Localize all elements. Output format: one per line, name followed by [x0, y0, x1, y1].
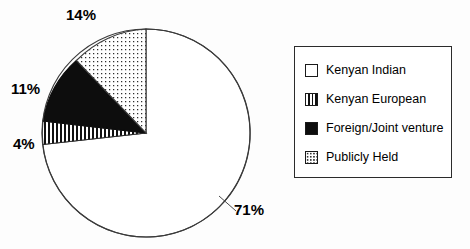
pie-chart-figure: 14% 11% 4% 71% Kenyan Indian Kenyan Euro…	[0, 0, 470, 249]
slice-value-label-kenyan-european: 4%	[13, 135, 35, 152]
legend-item-publicly-held: Publicly Held	[305, 143, 449, 172]
legend-item-kenyan-indian: Kenyan Indian	[305, 56, 449, 85]
legend-swatch-solid-black-icon	[305, 122, 318, 135]
legend-swatch-dots-icon	[305, 151, 318, 164]
slice-value-label-kenyan-indian: 71%	[234, 201, 264, 218]
legend: Kenyan Indian Kenyan European Foreign/Jo…	[294, 46, 452, 178]
legend-swatch-vertical-stripes-icon	[305, 93, 318, 106]
legend-label-publicly-held: Publicly Held	[326, 151, 398, 164]
legend-item-kenyan-european: Kenyan European	[305, 85, 449, 114]
slice-value-label-foreign-joint-venture: 11%	[11, 80, 40, 97]
legend-label-kenyan-european: Kenyan European	[326, 93, 426, 106]
slice-value-label-publicly-held: 14%	[66, 6, 96, 23]
legend-swatch-plain-icon	[305, 64, 318, 77]
legend-item-foreign-joint-venture: Foreign/Joint venture	[305, 114, 449, 143]
legend-label-kenyan-indian: Kenyan Indian	[326, 64, 406, 77]
legend-items: Kenyan Indian Kenyan European Foreign/Jo…	[305, 56, 449, 172]
legend-label-foreign-joint-venture: Foreign/Joint venture	[326, 122, 443, 135]
